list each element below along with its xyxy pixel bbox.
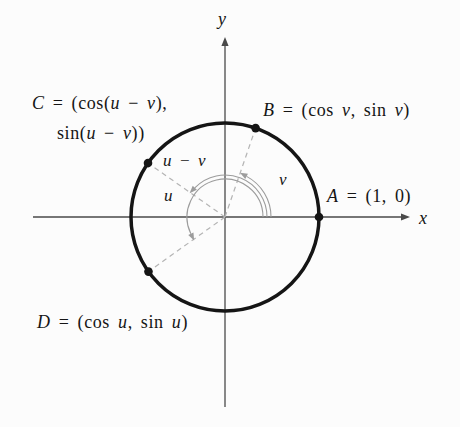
point-dot-c: [144, 159, 153, 168]
angle-u-arc-arrow-icon: [188, 232, 194, 240]
angle-u-minus-v-arc: [195, 175, 267, 217]
point-dot-a: [315, 213, 324, 222]
point-d-label: D = (cos u, sin u): [37, 312, 188, 333]
dashed-radius-line: [225, 128, 256, 217]
y-axis-label: y: [218, 9, 227, 30]
point-c-label: C = (cos(u − v), sin(u − v)): [32, 88, 167, 148]
figure-canvas: [0, 0, 460, 427]
x-axis-arrow-icon: [401, 213, 410, 220]
angle-u-minus-v-label: u − v: [163, 151, 206, 171]
y-axis-arrow-icon: [221, 37, 228, 46]
dashed-radius-line: [148, 163, 225, 217]
x-axis-label: x: [419, 208, 428, 229]
point-dot-d: [144, 267, 153, 276]
point-dot-b: [251, 124, 260, 133]
dashed-radius-line: [148, 217, 225, 272]
unit-circle-figure: C = (cos(u − v), sin(u − v)) B = (cos v,…: [0, 0, 460, 427]
point-a-label: A = (1, 0): [327, 186, 411, 207]
point-c-label-line1: C = (cos(u − v),: [32, 93, 167, 113]
point-c-label-line2: sin(u − v)): [57, 118, 167, 148]
point-b-label: B = (cos v, sin v): [263, 100, 410, 121]
angle-v-label: v: [279, 170, 287, 190]
angle-v-arc: [247, 176, 271, 217]
angle-u-label: u: [164, 186, 173, 206]
